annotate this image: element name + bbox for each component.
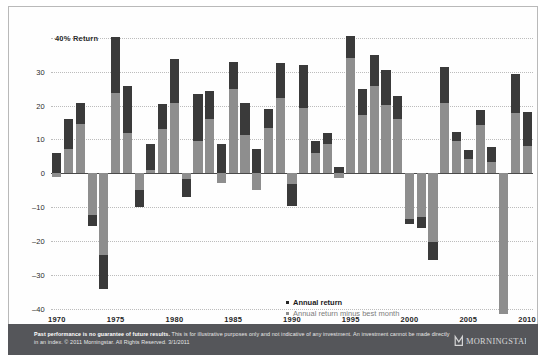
legend-label-minus-best-month: Annual return minus best month xyxy=(293,308,399,319)
bar-group xyxy=(240,31,249,309)
bar-segment-minus-best-month xyxy=(217,173,226,182)
bar-group xyxy=(264,31,273,309)
bar-segment-minus-best-month xyxy=(205,119,214,173)
bar-segment-minus-best-month xyxy=(417,173,426,217)
bar-segment-minus-best-month xyxy=(76,124,85,173)
bar-segment-minus-best-month xyxy=(264,128,273,173)
x-axis-tick-label: 2005 xyxy=(459,315,477,324)
bar-segment-minus-best-month xyxy=(523,146,532,173)
bar-group xyxy=(135,31,144,309)
bar-segment-minus-best-month xyxy=(476,125,485,173)
legend-item-minus-best-month: Annual return minus best month xyxy=(286,308,399,319)
bar-segment-minus-best-month xyxy=(452,141,461,174)
bar-segment-minus-best-month xyxy=(123,133,132,173)
bar-group xyxy=(323,31,332,309)
bar-segment-minus-best-month xyxy=(499,173,508,314)
legend-swatch-icon xyxy=(286,301,289,304)
bar-segment-minus-best-month xyxy=(393,119,402,174)
y-axis-tick-label: 10 xyxy=(36,135,45,144)
bar-group xyxy=(76,31,85,309)
chart-frame: 40% Return3020100–10–20–30–40 1970197519… xyxy=(8,6,538,355)
bar-group xyxy=(287,31,296,309)
x-axis-tick-label: 2010 xyxy=(518,315,536,324)
bar-segment-minus-best-month xyxy=(99,173,108,254)
bar-group xyxy=(111,31,120,309)
bar-segment-minus-best-month xyxy=(240,135,249,174)
bar-group xyxy=(370,31,379,309)
x-axis-tick-label: 2000 xyxy=(401,315,419,324)
bar-group xyxy=(182,31,191,309)
bar-group xyxy=(123,31,132,309)
x-axis-tick-label: 1975 xyxy=(107,315,125,324)
bar-group xyxy=(193,31,202,309)
bar-segment-minus-best-month xyxy=(487,162,496,174)
bar-segment-minus-best-month xyxy=(135,173,144,190)
bar-segment-minus-best-month xyxy=(88,173,97,214)
bar-segment-minus-best-month xyxy=(182,173,191,178)
bar-segment-minus-best-month xyxy=(287,173,296,184)
bar-group xyxy=(170,31,179,309)
bar-segment-minus-best-month xyxy=(299,108,308,173)
footer-bold-lead: Past performance is no guarantee of futu… xyxy=(34,331,170,337)
y-axis-tick-label: –10 xyxy=(32,203,45,212)
legend: Annual return Annual return minus best m… xyxy=(286,297,399,319)
bar-group xyxy=(205,31,214,309)
bar-group xyxy=(440,31,449,309)
bar-segment-annual-return xyxy=(52,153,61,173)
bar-segment-minus-best-month xyxy=(146,170,155,173)
bar-segment-minus-best-month xyxy=(440,103,449,174)
morningstar-logo: MORNINGSTAR xyxy=(454,333,526,347)
bar-group xyxy=(217,31,226,309)
bar-group xyxy=(476,31,485,309)
bar-group xyxy=(523,31,532,309)
footer-disclaimer-text: Past performance is no guarantee of futu… xyxy=(34,331,454,346)
y-axis-tick-label: –30 xyxy=(32,271,45,280)
bar-group xyxy=(311,31,320,309)
x-axis-tick-label: 1980 xyxy=(165,315,183,324)
bar-segment-minus-best-month xyxy=(334,173,343,177)
bar-group xyxy=(452,31,461,309)
bar-group xyxy=(511,31,520,309)
bar-segment-minus-best-month xyxy=(252,173,261,189)
bar-group xyxy=(64,31,73,309)
bar-group xyxy=(229,31,238,309)
bar-segment-minus-best-month xyxy=(276,98,285,174)
bar-segment-minus-best-month xyxy=(405,173,414,219)
bar-segment-minus-best-month xyxy=(428,173,437,242)
svg-text:MORNINGSTAR: MORNINGSTAR xyxy=(466,337,526,346)
legend-swatch-icon xyxy=(286,312,289,315)
bar-group xyxy=(52,31,61,309)
plot-area: 40% Return3020100–10–20–30–40 1970197519… xyxy=(51,31,533,309)
bar-group xyxy=(381,31,390,309)
bar-group xyxy=(428,31,437,309)
y-axis-tick-label: –40 xyxy=(32,305,45,314)
bar-segment-minus-best-month xyxy=(358,115,367,173)
bar-group xyxy=(417,31,426,309)
bar-segment-annual-return xyxy=(334,167,343,174)
bar-group xyxy=(146,31,155,309)
bar-group xyxy=(276,31,285,309)
bar-segment-minus-best-month xyxy=(346,58,355,173)
bar-group xyxy=(99,31,108,309)
bar-group xyxy=(358,31,367,309)
bar-segment-annual-return xyxy=(252,149,261,173)
y-axis-tick-label: 30 xyxy=(36,67,45,76)
y-axis-tick-label: 0 xyxy=(41,169,45,178)
bar-group xyxy=(499,31,508,309)
bar-group xyxy=(252,31,261,309)
legend-item-annual-return: Annual return xyxy=(286,297,399,308)
legend-label-annual-return: Annual return xyxy=(293,297,342,308)
bar-group xyxy=(299,31,308,309)
bar-segment-minus-best-month xyxy=(311,153,320,174)
bar-segment-minus-best-month xyxy=(381,105,390,174)
y-axis-tick-label: 20 xyxy=(36,101,45,110)
bar-group xyxy=(487,31,496,309)
x-axis-tick-label: 1970 xyxy=(48,315,66,324)
chart-screenshot: 40% Return3020100–10–20–30–40 1970197519… xyxy=(0,0,546,363)
bar-segment-minus-best-month xyxy=(229,89,238,173)
bar-group xyxy=(464,31,473,309)
bar-segment-minus-best-month xyxy=(464,159,473,174)
footer-disclaimer-bar: Past performance is no guarantee of futu… xyxy=(8,324,538,355)
bar-segment-minus-best-month xyxy=(511,113,520,173)
bar-group xyxy=(334,31,343,309)
